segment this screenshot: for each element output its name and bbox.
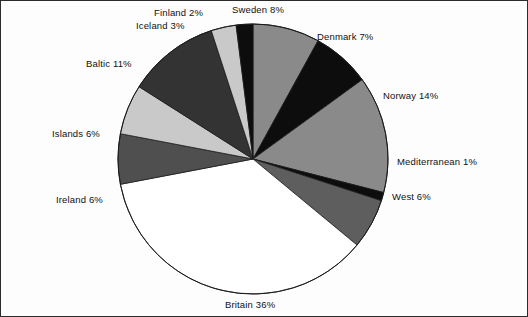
pie-label-islands: Islands 6% [52, 128, 100, 139]
pie-label-mediterranean: Mediterranean 1% [397, 156, 477, 167]
pie-label-iceland: Iceland 3% [136, 20, 185, 31]
pie-label-ireland: Ireland 6% [56, 194, 103, 205]
pie-chart-figure: Sweden 8%Denmark 7%Norway 14%Mediterrane… [0, 0, 528, 317]
pie-label-britain: Britain 36% [225, 299, 275, 310]
pie-slice-group [118, 24, 388, 294]
pie-label-sweden: Sweden 8% [232, 4, 284, 15]
pie-label-norway: Norway 14% [383, 90, 438, 101]
pie-label-west: West 6% [392, 191, 431, 202]
pie-label-baltic: Baltic 11% [86, 58, 132, 69]
pie-label-finland: Finland 2% [154, 7, 203, 18]
pie-label-denmark: Denmark 7% [317, 31, 373, 42]
